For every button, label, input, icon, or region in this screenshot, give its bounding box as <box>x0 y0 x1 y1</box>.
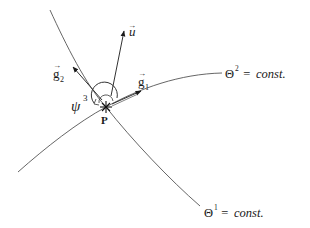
u-vector-arrow <box>111 31 124 96</box>
g1-label-arrow: → <box>138 69 146 78</box>
theta1-const: const. <box>234 206 264 220</box>
g2-label-arrow: → <box>53 61 61 70</box>
theta1-symbol: Θ <box>204 206 213 220</box>
theta2-superscript: 2 <box>235 64 239 73</box>
g1-label: g 1 → <box>138 69 149 92</box>
psi3-label: ψ 3 <box>71 93 88 114</box>
theta1-const-label: Θ 1 = const. <box>204 203 264 220</box>
theta1-equals: = <box>218 206 231 220</box>
g2-label: g 2 → <box>53 61 64 84</box>
psi-superscript: 3 <box>83 93 88 103</box>
theta2-equals: = <box>240 67 253 81</box>
g2-label-sub: 2 <box>60 75 64 84</box>
u-label-arrow: → <box>128 21 136 30</box>
angle-arc-arrow-icon <box>94 99 99 105</box>
theta2-symbol: Θ <box>225 67 234 81</box>
g1-vector-arrow <box>112 91 141 104</box>
theta2-curve <box>18 73 222 172</box>
theta2-const: const. <box>256 67 286 81</box>
point-p-label: P <box>101 114 108 126</box>
theta2-const-label: Θ 2 = const. <box>225 64 286 81</box>
diagram-canvas: P u → g 2 → g 1 → ψ 3 Θ 2 = const. Θ 1 =… <box>0 0 310 228</box>
g1-vector-shadow <box>112 94 138 106</box>
g1-label-sub: 1 <box>145 83 149 92</box>
psi-symbol: ψ <box>71 98 81 114</box>
u-label: u → <box>128 21 136 39</box>
